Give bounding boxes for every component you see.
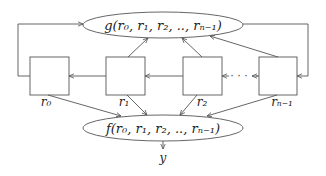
register-r0-label: r₀ <box>41 95 52 109</box>
register-rn-1: rₙ₋₁ <box>259 57 297 109</box>
arrow-rn1-to-f <box>207 95 277 116</box>
output-label: y <box>159 151 167 165</box>
g-function-label: g(r₀, r₁, r₂, .., rₙ₋₁) <box>104 18 222 33</box>
lfsr-diagram: g(r₀, r₁, r₂, .., rₙ₋₁) f(r₀, r₁, r₂, ..… <box>0 0 326 176</box>
arrow-r1-to-g <box>128 38 148 57</box>
register-r1-label: r₁ <box>119 95 130 109</box>
register-r2-label: r₂ <box>197 95 208 109</box>
register-r1: r₁ <box>106 57 145 109</box>
f-function-label: f(r₀, r₁, r₂, .., rₙ₋₁) <box>105 121 220 136</box>
arrow-rn1-to-g <box>210 36 278 57</box>
ellipsis-dots: · · · <box>230 69 247 82</box>
g-function-node: g(r₀, r₁, r₂, .., rₙ₋₁) <box>83 12 243 38</box>
arrow-r0-to-f <box>48 95 121 116</box>
arrow-r2-to-g <box>182 38 202 57</box>
f-function-node: f(r₀, r₁, r₂, .., rₙ₋₁) <box>83 115 243 141</box>
arrow-r2-to-f <box>180 95 197 115</box>
register-r0: r₀ <box>30 57 69 109</box>
arrow-r1-to-f <box>127 95 147 115</box>
register-r2: r₂ <box>183 57 222 109</box>
register-rn-1-label: rₙ₋₁ <box>271 95 293 109</box>
